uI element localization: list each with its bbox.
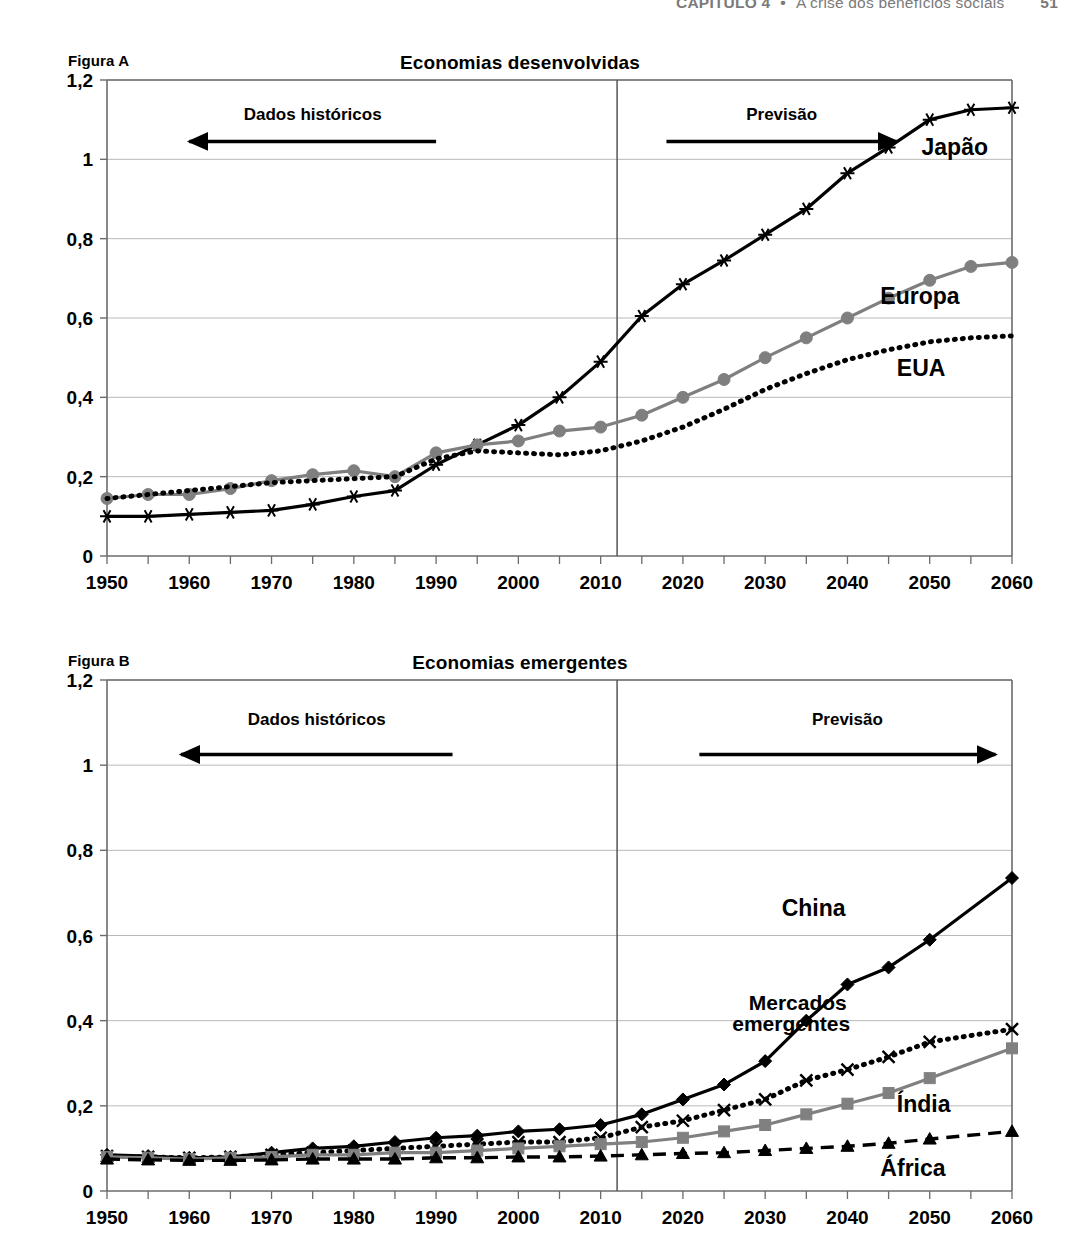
data-point-marker (718, 373, 730, 385)
y-tick-label: 0,2 (67, 1096, 93, 1117)
page-root: CAPÍTULO 4 • A crise dos benefícios soci… (0, 0, 1076, 1251)
data-point-marker (719, 1126, 730, 1137)
x-tick-label: 2050 (909, 1207, 951, 1228)
data-point-marker (554, 425, 566, 437)
grid-lines (107, 80, 1012, 477)
figure-a-svg: 00,20,40,60,811,219501960197019801990200… (0, 68, 1076, 618)
x-tick-label: 2060 (991, 1207, 1033, 1228)
historical-annotation-label: Dados históricos (244, 105, 382, 124)
data-point-marker (182, 508, 196, 520)
x-tick-label: 2000 (497, 572, 539, 593)
x-tick-label: 1950 (86, 1207, 128, 1228)
data-point-marker (718, 1078, 731, 1091)
series-line (107, 262, 1012, 498)
series-label-line-1: Mercados (749, 991, 847, 1014)
figure-b: Figura B Economias emergentes 00,20,40,6… (0, 652, 1076, 1251)
running-head-title: A crise dos benefícios sociais (796, 0, 1004, 12)
data-point-marker (676, 1093, 689, 1106)
figure-a-label: Figura A (68, 52, 129, 69)
series-label-europa: Europa (880, 283, 959, 309)
series-1 (101, 872, 1019, 1165)
x-tick-label: 2020 (662, 572, 704, 593)
x-axis-labels: 1950196019701980199020002010202020302040… (86, 572, 1033, 593)
y-tick-label: 0,6 (67, 308, 93, 329)
x-tick-label: 1970 (250, 572, 292, 593)
data-point-marker (759, 1093, 771, 1105)
data-point-marker (595, 421, 607, 433)
running-head-chapter: CAPÍTULO 4 (676, 0, 770, 12)
y-tick-label: 1,2 (67, 70, 93, 91)
forecast-annotation-label: Previsão (746, 105, 817, 124)
data-point-marker (964, 104, 978, 116)
x-axis-minor-ticks (107, 556, 1012, 564)
data-point-marker (965, 260, 977, 272)
figure-b-svg: 00,20,40,60,811,219501960197019801990200… (0, 668, 1076, 1251)
x-tick-label: 1970 (250, 1207, 292, 1228)
data-point-marker (842, 1098, 853, 1109)
data-point-marker (801, 1109, 812, 1120)
figure-a-plot: 00,20,40,60,811,219501960197019801990200… (0, 68, 1076, 618)
grid-lines (107, 680, 1012, 1106)
x-tick-label: 2000 (497, 1207, 539, 1228)
figure-a: Figura A Economias desenvolvidas 00,20,4… (0, 52, 1076, 622)
running-head: CAPÍTULO 4 • A crise dos benefícios soci… (0, 0, 1076, 16)
x-tick-label: 1980 (333, 572, 375, 593)
y-tick-label: 0 (82, 1181, 93, 1202)
y-tick-label: 1 (82, 755, 93, 776)
series-line (107, 878, 1012, 1158)
x-tick-label: 1960 (168, 572, 210, 593)
x-tick-label: 1990 (415, 1207, 457, 1228)
data-point-marker (800, 332, 812, 344)
annotation-layer: Dados históricosPrevisão (189, 105, 897, 142)
data-point-marker (306, 498, 320, 510)
data-point-marker (636, 409, 648, 421)
figure-b-label: Figura B (68, 652, 130, 669)
series-3 (107, 336, 1012, 499)
data-point-marker (223, 506, 237, 518)
x-tick-label: 2060 (991, 572, 1033, 593)
series-label-mercados-emergentes: Mercadosemergentes (732, 991, 850, 1035)
data-point-marker (677, 391, 689, 403)
x-tick-label: 2020 (662, 1207, 704, 1228)
series-line (107, 1029, 1012, 1158)
data-point-marker (760, 1119, 771, 1130)
data-point-marker (553, 1123, 566, 1136)
data-point-marker (759, 352, 771, 364)
data-point-marker (677, 1132, 688, 1143)
x-tick-label: 2030 (744, 572, 786, 593)
data-point-marker (636, 1137, 647, 1148)
y-tick-label: 0 (82, 546, 93, 567)
data-point-marker (1006, 256, 1018, 268)
y-tick-label: 0,4 (67, 387, 94, 408)
y-tick-label: 1,2 (67, 670, 93, 691)
data-point-marker (883, 1088, 894, 1099)
x-axis-minor-ticks (107, 1191, 1012, 1199)
x-tick-label: 1960 (168, 1207, 210, 1228)
historical-annotation-label: Dados históricos (248, 710, 386, 729)
data-point-marker (635, 1108, 648, 1121)
data-point-marker (1006, 1125, 1019, 1137)
y-axis-ticks: 00,20,40,60,811,2 (67, 670, 107, 1202)
x-tick-label: 2030 (744, 1207, 786, 1228)
data-point-marker (265, 504, 279, 516)
data-point-marker (512, 435, 524, 447)
running-head-page-number: 51 (1040, 0, 1058, 12)
series-label-india: Índia (897, 1090, 951, 1117)
x-tick-label: 2010 (579, 572, 621, 593)
data-point-marker (348, 465, 360, 477)
x-tick-label: 2040 (826, 572, 868, 593)
forecast-annotation-label: Previsão (812, 710, 883, 729)
y-tick-label: 0,8 (67, 840, 93, 861)
series-label-china: China (782, 895, 846, 921)
y-tick-label: 0,4 (67, 1011, 94, 1032)
data-point-marker (1007, 1043, 1018, 1054)
figure-b-plot: 00,20,40,60,811,219501960197019801990200… (0, 668, 1076, 1251)
data-point-marker (594, 1118, 607, 1131)
data-point-marker (595, 1139, 606, 1150)
running-head-separator: • (780, 0, 786, 12)
series-layer (100, 102, 1019, 523)
data-point-marker (636, 1121, 648, 1133)
data-point-marker (841, 312, 853, 324)
x-axis-labels: 1950196019701980199020002010202020302040… (86, 1207, 1033, 1228)
series-label-eua: EUA (897, 355, 946, 381)
